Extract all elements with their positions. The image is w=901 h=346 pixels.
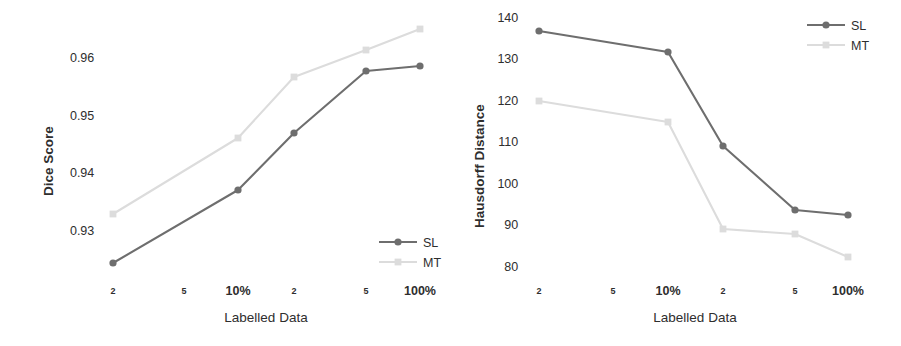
y-tick-label: 0.94 (48, 166, 94, 180)
legend-swatch-mt (377, 253, 419, 271)
x-tick-label: 10% (225, 284, 250, 298)
y-axis-title: Dice Score (41, 126, 56, 196)
hausdorff-distance-chart: Hausdorff Distance 140 130 120 110 100 9… (450, 0, 901, 346)
y-tick-label: 100 (478, 177, 518, 191)
x-tick-label: 5 (792, 286, 797, 296)
legend-label-mt: MT (423, 256, 441, 270)
y-tick-label: 120 (478, 94, 518, 108)
series-line-sl (113, 66, 420, 263)
x-tick-label: 5 (363, 286, 368, 296)
legend-label-mt: MT (851, 39, 869, 53)
series-line-mt (113, 29, 420, 214)
legend-swatch-sl (377, 233, 419, 251)
y-tick-label: 110 (478, 135, 518, 149)
x-tick-label: 5 (181, 286, 186, 296)
x-tick-label: 10% (655, 284, 680, 298)
series-line-sl (539, 31, 848, 215)
figure-container: Dice Score 0.96 0.95 0.94 0.93 2 5 10% 2… (0, 0, 901, 346)
x-tick-label: 2 (291, 286, 296, 296)
x-tick-label: 100% (832, 284, 864, 298)
legend-swatch-sl (805, 16, 847, 34)
y-tick-label: 0.95 (48, 109, 94, 123)
legend-label-sl: SL (423, 236, 438, 250)
x-tick-label: 5 (610, 286, 615, 296)
legend-label-sl: SL (851, 19, 866, 33)
y-tick-label: 90 (478, 218, 518, 232)
legend-swatch-mt (805, 36, 847, 54)
y-tick-label: 0.93 (48, 224, 94, 238)
series-markers-mt (536, 98, 852, 261)
x-tick-label: 2 (536, 286, 541, 296)
x-tick-label: 2 (720, 286, 725, 296)
x-tick-label: 100% (404, 284, 436, 298)
x-axis-title: Labelled Data (224, 310, 307, 325)
x-tick-label: 2 (110, 286, 115, 296)
y-tick-label: 130 (478, 52, 518, 66)
y-axis-title: Hausdorff Distance (472, 104, 487, 228)
y-tick-label: 140 (478, 11, 518, 25)
y-tick-label: 80 (478, 260, 518, 274)
y-tick-label: 0.96 (48, 51, 94, 65)
series-line-mt (539, 101, 848, 257)
dice-score-chart: Dice Score 0.96 0.95 0.94 0.93 2 5 10% 2… (0, 0, 450, 346)
series-markers-sl (535, 27, 851, 218)
x-axis-title: Labelled Data (653, 310, 736, 325)
